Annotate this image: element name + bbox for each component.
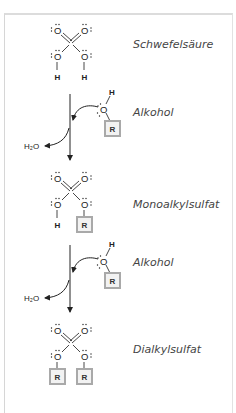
oxygen-atom: O <box>81 51 88 62</box>
curved-arrow <box>45 280 69 298</box>
reagent-label: Alkohol <box>132 106 173 119</box>
r-group-label: R <box>82 373 88 382</box>
molecule-label: Schwefelsäure <box>133 38 213 51</box>
reagent-label: Alkohol <box>132 256 173 269</box>
oxygen-atom: O <box>100 256 107 267</box>
water-byproduct: H₂O <box>24 142 39 151</box>
oxygen-atom: O <box>81 325 88 336</box>
oxygen-atom: O <box>54 51 61 62</box>
molecule-monoalkylsulfat: O O O O H R Monoalkylsulfat <box>51 172 220 232</box>
oxygen-atom: O <box>54 199 61 210</box>
hydrogen-atom: H <box>55 73 61 82</box>
oxygen-atom: O <box>100 104 107 115</box>
r-group-label: R <box>110 277 116 286</box>
oxygen-atom: O <box>54 25 61 36</box>
hydrogen-atom: H <box>55 221 61 230</box>
water-byproduct: H₂O <box>24 294 39 303</box>
oxygen-atom: O <box>54 325 61 336</box>
r-group-label: R <box>82 221 88 230</box>
r-group-label: R <box>110 125 116 134</box>
hydrogen-atom: H <box>82 73 88 82</box>
oxygen-atom: O <box>54 173 61 184</box>
molecule-label: Dialkylsulfat <box>133 343 202 356</box>
oxygen-atom: O <box>81 25 88 36</box>
reaction-step-1: H₂O H O R Alkohol <box>24 88 173 160</box>
reaction-step-2: H₂O H O R Alkohol <box>24 240 173 312</box>
oxygen-atom: O <box>81 351 88 362</box>
oxygen-atom: O <box>81 199 88 210</box>
r-group-label: R <box>55 373 61 382</box>
oxygen-atom: O <box>54 351 61 362</box>
hydrogen-atom: H <box>109 240 115 249</box>
curved-arrow <box>73 258 98 272</box>
curved-arrow <box>73 106 98 120</box>
molecule-schwefelsaeure: O O O O H H Schwefelsäure <box>51 24 214 82</box>
molecule-dialkylsulfat: O O O O R R Dialkylsulfat <box>50 324 202 384</box>
oxygen-atom: O <box>81 173 88 184</box>
curved-arrow <box>45 128 69 146</box>
hydrogen-atom: H <box>109 88 115 97</box>
molecule-label: Monoalkylsulfat <box>133 198 220 211</box>
